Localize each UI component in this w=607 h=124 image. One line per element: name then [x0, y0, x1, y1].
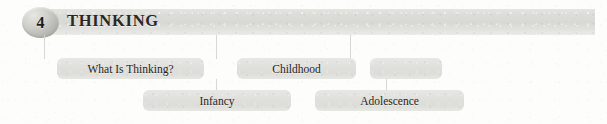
outline-box-label: Adolescence: [360, 95, 419, 107]
chapter-number-badge: 4: [22, 7, 59, 38]
outline-box-childhood[interactable]: Childhood: [237, 58, 356, 79]
outline-box-blank[interactable]: [370, 58, 442, 79]
connector-to-what-is-thinking: [44, 35, 45, 59]
chapter-number-label: 4: [22, 7, 59, 38]
outline-box-adolescence[interactable]: Adolescence: [315, 90, 464, 111]
connector-to-childhood: [216, 35, 217, 59]
outline-box-label: Childhood: [272, 63, 321, 75]
outline-box-label: What Is Thinking?: [87, 63, 173, 75]
chapter-outline-figure: THINKING 4 What Is Thinking?ChildhoodInf…: [0, 0, 607, 124]
outline-box-label: Infancy: [199, 95, 234, 107]
connector-to-adolescence-upper: [350, 35, 351, 59]
outline-box-infancy[interactable]: Infancy: [143, 90, 291, 111]
outline-box-what-is-thinking[interactable]: What Is Thinking?: [57, 58, 204, 79]
chapter-title: THINKING: [67, 11, 159, 31]
